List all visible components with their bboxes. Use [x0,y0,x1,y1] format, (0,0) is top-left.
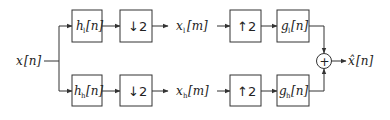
wire-gl-to-sum [309,26,324,53]
filter-bank-diagram: x [n] h l [n] ↓2 x l [m] ↑2 g l [n] h h [0,0,390,120]
xl-arg: [m] [187,19,208,33]
xh-arg: [m] [188,84,209,98]
up-high-label: ↑2 [237,84,256,99]
input-arg: [n] [24,54,41,68]
analysis-filter-low: h l [n] [72,10,103,42]
down-low-label: ↓2 [128,19,147,34]
downsampler-high: ↓2 [120,75,152,106]
input-label: x [n] [16,54,41,68]
summer-node: + [317,54,332,69]
synthesis-filter-high: g h [n] [277,75,309,106]
gh-arg: [n] [291,84,308,98]
output-base: x̂ [348,54,355,68]
output-arg: [n] [356,54,373,68]
plus-icon: + [320,55,330,69]
upsampler-low: ↑2 [230,10,261,42]
gl-arg: [n] [291,19,308,33]
xl-sub: l [183,27,186,35]
upsampler-high: ↑2 [230,75,261,106]
analysis-filter-high: h h [n] [72,75,103,106]
input-base: x [16,54,23,68]
downsampler-low: ↓2 [120,10,152,42]
down-high-label: ↓2 [128,84,147,99]
hh-arg: [n] [86,84,103,98]
hl-arg: [n] [86,19,103,33]
signal-low-label: x l [m] [176,19,208,35]
xh-base: x [176,84,183,98]
signal-high-label: x h [m] [176,84,209,100]
output-label: x̂ [n] [348,54,373,68]
xl-base: x [176,19,183,33]
wire-gh-to-sum [309,69,324,91]
up-low-label: ↑2 [237,19,256,34]
synthesis-filter-low: g l [n] [277,10,309,42]
